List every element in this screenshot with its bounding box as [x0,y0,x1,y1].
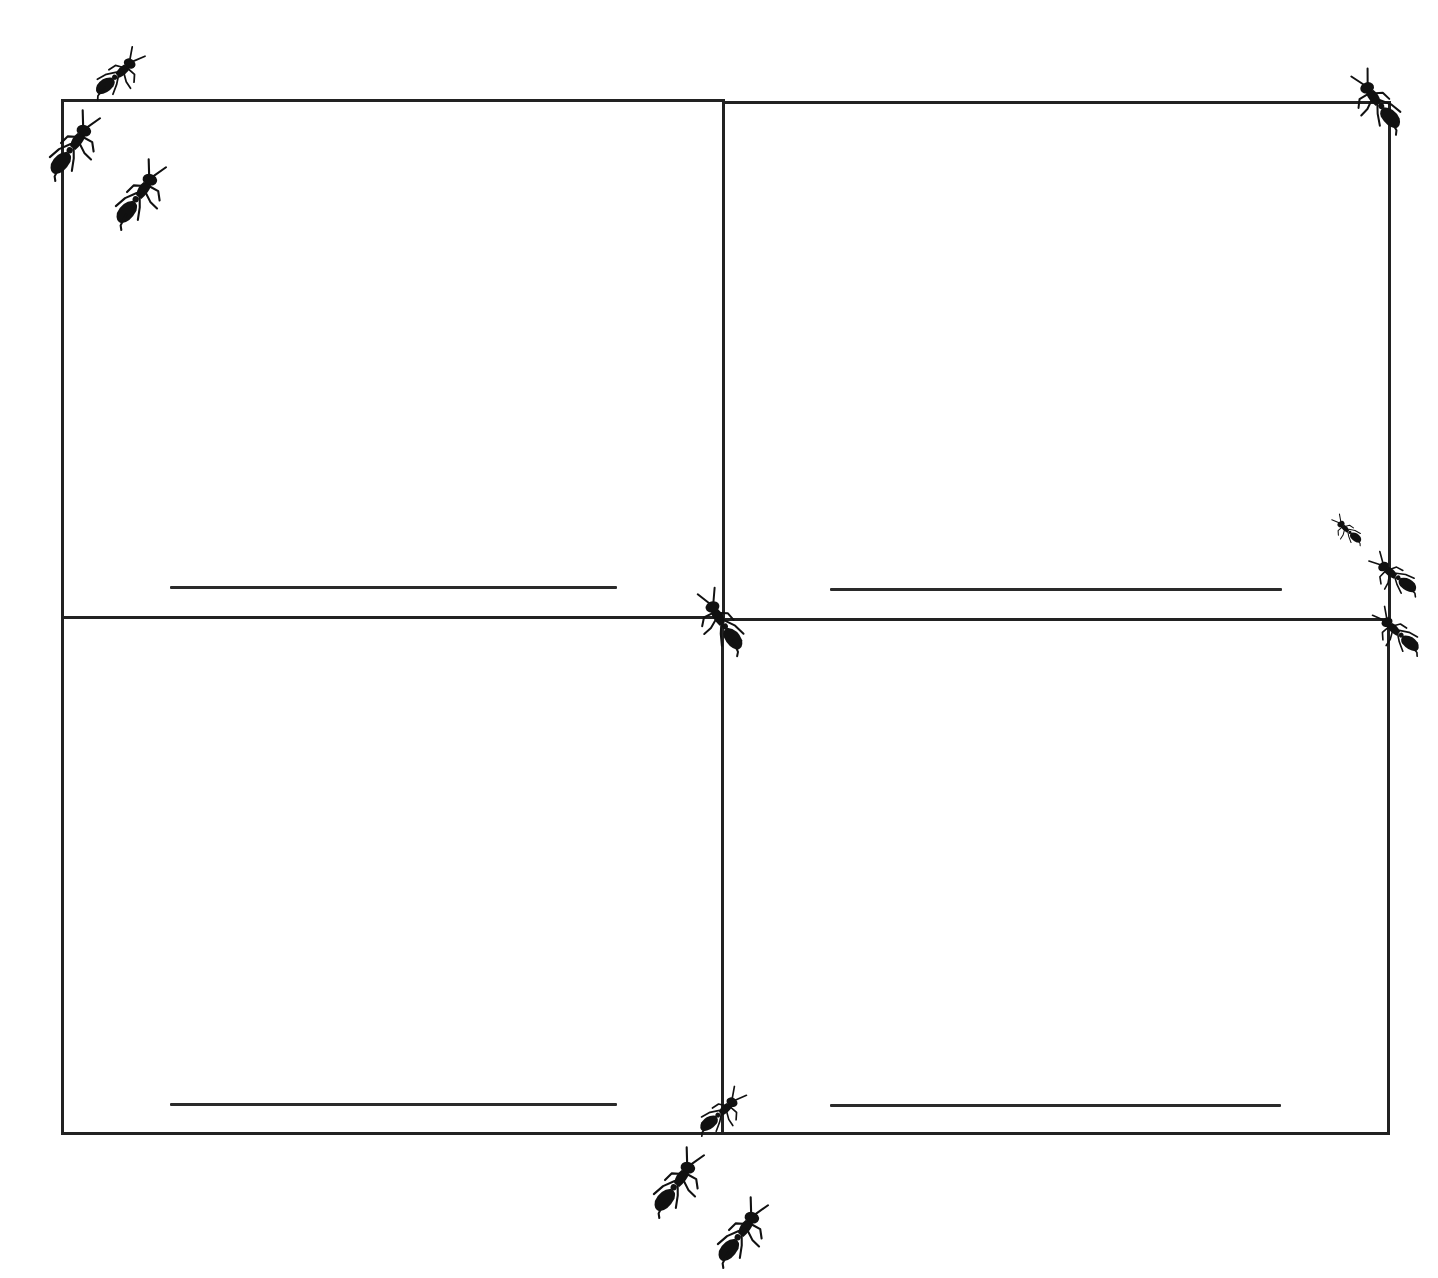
writing-line-top-right[interactable] [830,588,1282,591]
grid-middle-divider-left [62,616,725,619]
grid-left-border [61,99,64,1135]
grid-center-divider-bottom [721,617,724,1134]
grid-middle-divider-right [723,618,1391,621]
worksheet-page [0,0,1438,1278]
cell-bottom-right [722,619,1388,1134]
grid-top-border-right [723,101,1391,104]
writing-line-top-left[interactable] [170,586,617,589]
cell-bottom-left [62,617,722,1133]
ant-icon [697,1184,786,1278]
cell-top-right [723,102,1389,619]
writing-line-bottom-left[interactable] [170,1103,617,1106]
grid-center-divider-top [722,100,725,619]
grid-top-border-left [62,99,725,102]
grid-right-border-bottom [1387,618,1390,1135]
ant-icon [633,1134,722,1234]
writing-line-bottom-right[interactable] [830,1104,1281,1107]
